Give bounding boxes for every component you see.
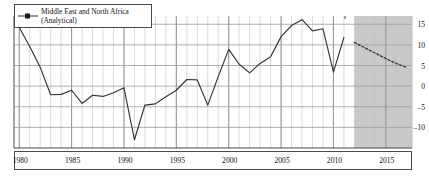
legend-label-line1: Middle East and North Africa bbox=[41, 7, 129, 16]
print-speck bbox=[344, 16, 346, 19]
x-axis-tick-1985: 1985 bbox=[65, 156, 80, 165]
x-axis-tick-2010: 2010 bbox=[327, 156, 342, 165]
forecast-shaded-region bbox=[354, 16, 412, 148]
legend-marker-icon bbox=[15, 5, 41, 27]
x-axis-tick-2005: 2005 bbox=[274, 156, 289, 165]
x-axis-tick-1980: 1980 bbox=[13, 156, 28, 165]
x-axis-tick-2000: 2000 bbox=[222, 156, 237, 165]
x-axis-tick-1995: 1995 bbox=[170, 156, 185, 165]
x-axis-label-band: 19801985199019952000200520102015 bbox=[14, 151, 412, 170]
legend-label-line2: (Analytical) bbox=[41, 16, 129, 25]
plot-background bbox=[14, 16, 412, 148]
legend-label: Middle East and North Africa (Analytical… bbox=[41, 7, 131, 25]
chart-figure: 151050–5–10 Middle East and North Africa… bbox=[0, 0, 429, 183]
x-axis-tick-1990: 1990 bbox=[117, 156, 132, 165]
chart-legend: Middle East and North Africa (Analytical… bbox=[14, 4, 152, 28]
x-axis-tick-2015: 2015 bbox=[379, 156, 394, 165]
